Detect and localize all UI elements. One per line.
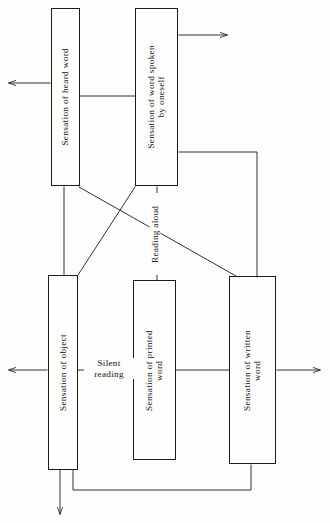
- node-sensation-of-printed-word[interactable]: Sensation of printed word: [133, 280, 176, 460]
- connector-spoken-to-object: [78, 187, 135, 275]
- node-sensation-of-word-spoken-by-oneself[interactable]: Sensation of word spoken by oneself: [135, 8, 178, 186]
- node-label: Sensation of printed word: [144, 330, 165, 411]
- node-label: Sensation of object: [58, 334, 68, 411]
- edge-label-reading-aloud: Reading aloud: [150, 193, 161, 275]
- node-sensation-of-written-word[interactable]: Sensation of written word: [229, 276, 276, 464]
- node-label: Sensation of word spoken by oneself: [146, 45, 167, 149]
- node-sensation-of-heard-word[interactable]: Sensation of heard word: [51, 8, 80, 186]
- connector-spoken-to-written: [179, 152, 257, 277]
- node-sensation-of-object[interactable]: Sensation of object: [48, 275, 78, 470]
- connector-written-to-object-loop: [73, 465, 251, 490]
- edge-label-silent-reading: Silent reading: [84, 358, 134, 379]
- node-label: Sensation of heard word: [60, 48, 70, 146]
- diagram-canvas: Sensation of heard word Sensation of wor…: [0, 0, 330, 523]
- node-label: Sensation of written word: [242, 330, 263, 411]
